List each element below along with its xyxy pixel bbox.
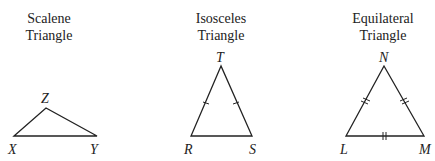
vertex-label-z: Z: [41, 91, 49, 106]
vertex-label-y: Y: [90, 142, 100, 157]
vertex-label-r: R: [183, 142, 193, 157]
vertex-label-s: S: [249, 142, 256, 157]
vertex-label-n: N: [378, 50, 389, 65]
vertex-label-m: M: [418, 142, 432, 157]
isosceles-triangle: T R S: [183, 50, 256, 157]
triangles-diagram: X Z Y T R S N L M: [0, 0, 435, 161]
vertex-label-l: L: [339, 142, 348, 157]
vertex-label-x: X: [7, 142, 17, 157]
vertex-label-t: T: [216, 50, 225, 65]
scalene-triangle: X Z Y: [7, 91, 100, 157]
equilateral-triangle: N L M: [339, 50, 432, 157]
